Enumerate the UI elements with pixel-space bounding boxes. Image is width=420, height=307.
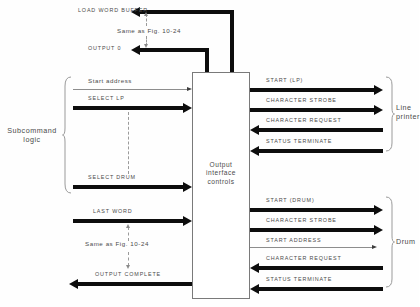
- select-drum-label: SELECT DRUM: [88, 175, 136, 180]
- drum-label-line1: Drum: [396, 238, 420, 245]
- select-drum-line: [73, 185, 183, 189]
- top-bus-vertical-outer: [230, 10, 234, 74]
- bottom-note-dash-upper: [128, 227, 129, 241]
- subcommand-logic-label: Subcommand logic: [4, 127, 60, 143]
- select-lp-line: [73, 106, 183, 110]
- center-box-label-line2: interface: [193, 169, 249, 177]
- center-box-label-line1: Output: [193, 161, 249, 169]
- output-complete-label: OUTPUT COMPLETE: [95, 272, 161, 277]
- bottom-note-label: Same as Fig. 10-24: [85, 241, 149, 247]
- bottom-note-dash-lower: [128, 252, 129, 266]
- character-strobe-lp-label: CHARACTER STROBE: [266, 98, 337, 103]
- character-request-drum-label: CHARACTER REQUEST: [266, 256, 342, 261]
- character-request-drum-line: [259, 266, 383, 270]
- status-terminate-drum-arrowhead: [250, 284, 259, 294]
- character-strobe-drum-line: [250, 228, 374, 232]
- status-terminate-lp-line: [259, 149, 383, 153]
- center-box-label: Output interface controls: [193, 161, 249, 186]
- subcommand-internal-dash: [128, 112, 129, 174]
- last-word-arrowhead: [183, 216, 192, 226]
- line-printer-label: Line printer: [396, 104, 420, 120]
- center-box-label-line3: controls: [193, 178, 249, 186]
- drum-label: Drum: [396, 238, 420, 245]
- drum-brace: [385, 196, 395, 288]
- bottom-note-arrow-down: [126, 265, 130, 269]
- character-strobe-drum-arrowhead: [374, 225, 383, 235]
- line-printer-brace: [385, 76, 395, 152]
- status-terminate-lp-label: STATUS TERMINATE: [266, 139, 332, 144]
- start-lp-label: START (LP): [266, 78, 303, 83]
- start-address-drum-label: START ADDRESS: [266, 238, 321, 243]
- line-printer-label-line2: printer: [396, 113, 420, 120]
- subcommand-logic-label-line1: Subcommand: [4, 127, 60, 134]
- start-address-line: [73, 89, 187, 90]
- character-strobe-drum-label: CHARACTER STROBE: [266, 218, 337, 223]
- load-word-buffer-label: LOAD WORD BUFFER: [78, 8, 148, 13]
- character-strobe-lp-line: [250, 108, 374, 112]
- top-note-arrow-down: [144, 44, 148, 48]
- start-drum-label: START (DRUM): [266, 198, 315, 203]
- start-drum-arrowhead: [374, 205, 383, 215]
- output-0-arrowhead: [131, 45, 140, 55]
- output-0-line: [140, 48, 209, 52]
- select-drum-arrowhead: [183, 182, 192, 192]
- character-request-drum-arrowhead: [250, 263, 259, 273]
- start-address-label: Start address: [88, 78, 132, 84]
- status-terminate-lp-arrowhead: [250, 146, 259, 156]
- character-request-lp-arrowhead: [250, 125, 259, 135]
- start-address-drum-line: [250, 247, 372, 248]
- start-address-drum-arrowhead: [372, 245, 377, 249]
- select-lp-label: SELECT LP: [88, 96, 125, 101]
- output-complete-arrowhead: [69, 279, 78, 289]
- last-word-label: LAST WORD: [93, 209, 133, 214]
- output-0-label: OUTPUT 0: [88, 46, 121, 51]
- start-drum-line: [250, 208, 374, 212]
- start-lp-line: [250, 88, 374, 92]
- start-lp-arrowhead: [374, 85, 383, 95]
- status-terminate-drum-line: [259, 287, 383, 291]
- output-complete-line: [78, 282, 192, 286]
- output-interface-controls-box: Output interface controls: [192, 72, 250, 299]
- bottom-note-arrow-up: [126, 224, 130, 228]
- top-note-label: Same as Fig. 10-24: [117, 28, 181, 34]
- character-request-lp-line: [259, 128, 383, 132]
- subcommand-logic-brace: [62, 76, 72, 194]
- top-note-arrow-up: [144, 12, 148, 16]
- last-word-line: [73, 219, 183, 223]
- character-strobe-lp-arrowhead: [374, 105, 383, 115]
- select-lp-arrowhead: [183, 103, 192, 113]
- subcommand-logic-label-line2: logic: [4, 136, 60, 143]
- status-terminate-drum-label: STATUS TERMINATE: [266, 277, 332, 282]
- line-printer-label-line1: Line: [396, 104, 420, 111]
- start-address-arrowhead: [187, 87, 192, 91]
- load-word-buffer-line: [140, 10, 234, 14]
- character-request-lp-label: CHARACTER REQUEST: [266, 118, 342, 123]
